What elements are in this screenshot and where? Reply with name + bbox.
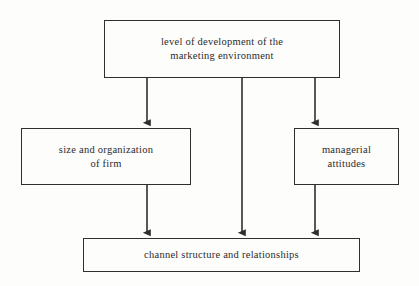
node-label-firm: size and organization of firm (55, 143, 157, 171)
node-label-channel: channel structure and relationships (140, 248, 303, 262)
node-size-and-organization-of-firm: size and organization of firm (21, 128, 191, 185)
node-label-environment: level of development of the marketing en… (157, 35, 287, 63)
node-level-of-development-of-marketing-environment: level of development of the marketing en… (104, 20, 340, 78)
diagram-canvas: level of development of the marketing en… (0, 0, 419, 286)
node-managerial-attitudes: managerial attitudes (294, 128, 399, 185)
node-channel-structure-and-relationships: channel structure and relationships (83, 238, 360, 272)
node-label-attitudes: managerial attitudes (318, 143, 375, 171)
